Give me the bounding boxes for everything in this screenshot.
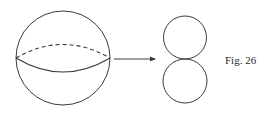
arrow — [114, 57, 156, 62]
top-circle — [164, 16, 207, 59]
sphere-equator-front-solid — [16, 58, 110, 72]
sphere-equator-back-dashed — [16, 45, 110, 59]
bottom-circle — [163, 59, 207, 103]
result-tangent-circles — [163, 16, 207, 103]
arrow-head-icon — [150, 57, 156, 62]
sphere-outline — [16, 11, 110, 105]
sphere — [16, 11, 110, 105]
figure-caption: Fig. 26 — [225, 54, 256, 66]
